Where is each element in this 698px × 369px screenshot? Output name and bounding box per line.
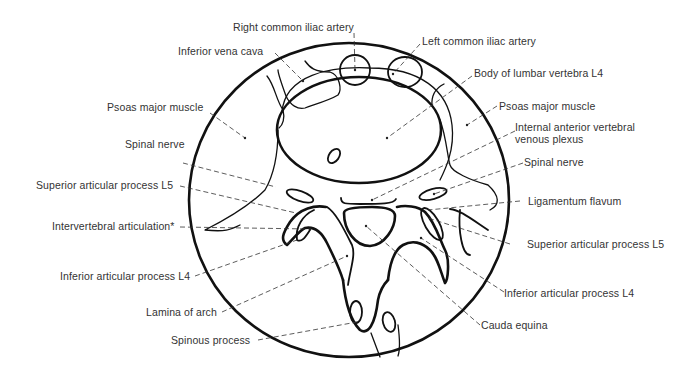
left-inferior-articular-process — [297, 210, 314, 241]
label-superior-articular-process-left: Superior articular process L5 — [36, 180, 173, 191]
spinal-canal — [344, 207, 395, 246]
label-inferior-vena-cava: Inferior vena cava — [178, 46, 263, 57]
label-ligamentum-flavum: Ligamentum flavum — [528, 196, 621, 207]
spinal-nerve-left-shape — [285, 187, 315, 206]
basivertebral-foramen — [325, 147, 342, 166]
label-body-of-lumbar-vertebra: Body of lumbar vertebra L4 — [474, 68, 603, 79]
venous-plexus-shape — [341, 198, 396, 204]
spinous-process-shape — [343, 280, 388, 331]
label-cauda-equina: Cauda equina — [481, 320, 548, 331]
label-lamina-of-arch: Lamina of arch — [146, 307, 217, 318]
psoas-boundary-left-lower — [205, 130, 278, 231]
label-spinous-process: Spinous process — [171, 335, 250, 346]
label-superior-articular-process-right: Superior articular process L5 — [527, 239, 664, 250]
label-left-common-iliac-artery: Left common iliac artery — [422, 36, 536, 47]
label-spinal-nerve-left: Spinal nerve — [125, 139, 185, 150]
inferior-vena-cava-outline — [278, 61, 340, 108]
label-inferior-articular-process-right: Inferior articular process L4 — [504, 288, 634, 299]
spinous-process-right-tubercle — [381, 311, 398, 333]
leader-lines — [180, 33, 523, 340]
right-lateral-outline — [450, 209, 488, 255]
label-spinal-nerve-right: Spinal nerve — [524, 157, 584, 168]
label-internal-venous-plexus-line2: venous plexus — [515, 134, 583, 145]
label-psoas-major-right: Psoas major muscle — [499, 101, 595, 112]
vertebral-body-outer-rim — [282, 68, 453, 180]
label-psoas-major-left: Psoas major muscle — [107, 102, 203, 113]
psoas-boundary-right — [440, 120, 497, 210]
vertebral-body — [277, 77, 441, 183]
label-intervertebral-articulation: Intervertebral articulation* — [52, 221, 174, 232]
label-internal-venous-plexus-line1: Internal anterior vertebral — [515, 122, 635, 133]
anatomy-diagram: Right common iliac artery Left common il… — [0, 0, 698, 369]
left-lamina — [283, 206, 343, 280]
label-inferior-articular-process-left: Inferior articular process L4 — [60, 271, 190, 282]
label-right-common-iliac-artery: Right common iliac artery — [233, 22, 354, 33]
spinous-process-left-tubercle — [350, 301, 362, 323]
